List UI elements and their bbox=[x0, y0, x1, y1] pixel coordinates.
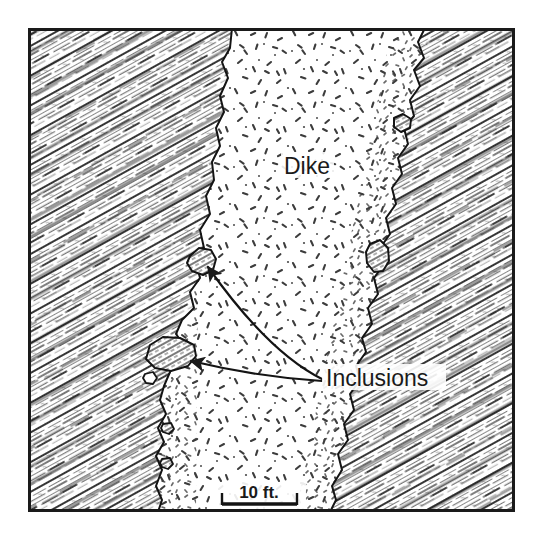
inclusion-left-lower bbox=[146, 337, 196, 371]
scale-bar: 10 ft. bbox=[214, 482, 306, 510]
inclusions-label: Inclusions bbox=[322, 364, 446, 391]
inclusion-right-middle bbox=[366, 240, 389, 272]
geologic-dike-diagram: Dike Inclusions 10 ft. bbox=[0, 0, 539, 536]
dike-label-text: Dike bbox=[284, 153, 330, 179]
inclusion-left-small bbox=[143, 372, 157, 384]
scale-bar-label: 10 ft. bbox=[239, 483, 279, 502]
dike-label: Dike bbox=[281, 152, 334, 179]
inclusion-right-upper bbox=[394, 114, 411, 132]
diagram-canvas: Dike Inclusions 10 ft. bbox=[0, 0, 539, 536]
inclusions-label-text: Inclusions bbox=[326, 365, 428, 391]
